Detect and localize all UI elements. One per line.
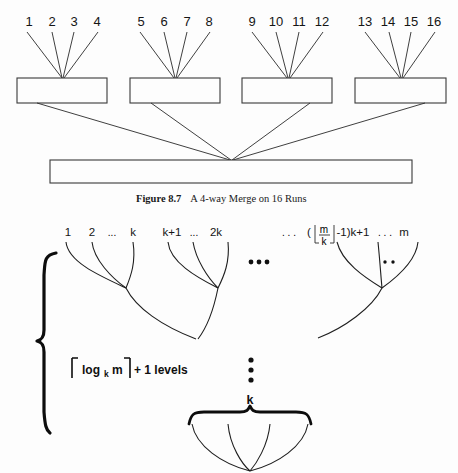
merge-subtree-last [318, 242, 418, 338]
bottom-merge-fan [192, 424, 308, 471]
run-label-5: 5 [137, 14, 144, 29]
group1-label-start: 1 [65, 226, 71, 238]
group1-label-ellipsis: ... [108, 227, 116, 238]
group1-label-end: k [130, 226, 136, 238]
run-label-16: 16 [427, 14, 441, 29]
vertical-ellipsis [248, 357, 253, 382]
buffer-box-3 [242, 78, 332, 103]
buffer-box-4 [355, 78, 446, 103]
lastgroup-trailing-ellipsis: . . . [378, 227, 392, 238]
floor-bracket-m-over-k: m k [315, 224, 334, 247]
log-text: log [82, 363, 100, 377]
run-number-labels: 1 2 3 4 5 6 7 8 9 10 11 12 13 14 15 16 [25, 14, 441, 29]
fraction-numerator-m: m [320, 224, 328, 235]
group2-label-ellipsis: ... [190, 227, 198, 238]
levels-brace [37, 253, 56, 433]
run-label-1: 1 [25, 14, 32, 29]
bottom-brace [189, 406, 311, 424]
lastgroup-leading-ellipsis: . . . [282, 227, 296, 238]
run-label-3: 3 [70, 14, 77, 29]
run-label-15: 15 [404, 14, 418, 29]
merge-subtree-2 [168, 242, 228, 339]
figure-caption-label: Figure 8.7 [136, 193, 181, 204]
output-buffer-box [50, 160, 412, 183]
levels-suffix: + 1 levels [134, 363, 188, 377]
lastgroup-open-paren: ( [307, 226, 311, 238]
run-label-7: 7 [183, 14, 190, 29]
lastgroup-minus-one-expr: -1)k+1 [337, 226, 370, 238]
inner-dot-2 [391, 260, 394, 263]
lastgroup-end-m: m [399, 226, 409, 238]
group2-label-end: 2k [210, 226, 222, 238]
run-label-6: 6 [160, 14, 167, 29]
buffer-box-2 [130, 78, 220, 103]
group1-label-second: 2 [89, 226, 95, 238]
tree-group-last-labels: . . . ( m k -1)k+1 . . . m [282, 224, 409, 247]
inner-dot-1 [383, 260, 386, 263]
run-label-9: 9 [248, 14, 255, 29]
run-label-12: 12 [315, 14, 329, 29]
figure-canvas: 1 2 3 4 5 6 7 8 9 10 11 12 13 14 15 16 [0, 0, 458, 473]
run-to-buffer-lines [27, 32, 435, 78]
figure-caption-text: A 4-way Merge on 16 Runs [190, 193, 306, 204]
intermediate-buffers [17, 78, 446, 103]
run-label-10: 10 [269, 14, 283, 29]
run-label-4: 4 [93, 14, 100, 29]
buffer-box-1 [17, 78, 107, 103]
merge-subtree-1 [66, 242, 196, 339]
buffer-to-output-lines [37, 103, 425, 160]
run-label-14: 14 [381, 14, 395, 29]
figure-page: 1 2 3 4 5 6 7 8 9 10 11 12 13 14 15 16 [0, 0, 458, 473]
fraction-denominator-k: k [322, 236, 328, 247]
log-argument-m: m [112, 363, 123, 377]
levels-annotation: log k m + 1 levels [72, 358, 188, 379]
tree-group-1-labels: 1 2 ... k [65, 226, 136, 238]
run-label-13: 13 [358, 14, 372, 29]
tree-group-2-labels: k+1 ... 2k [163, 226, 223, 238]
run-label-11: 11 [292, 14, 306, 29]
run-label-2: 2 [48, 14, 55, 29]
log-subscript-k: k [104, 369, 109, 379]
run-label-8: 8 [205, 14, 212, 29]
figure-caption: Figure 8.7 A 4-way Merge on 16 Runs [136, 193, 307, 204]
group-separator-dots [249, 260, 270, 265]
group2-label-start: k+1 [163, 226, 182, 238]
